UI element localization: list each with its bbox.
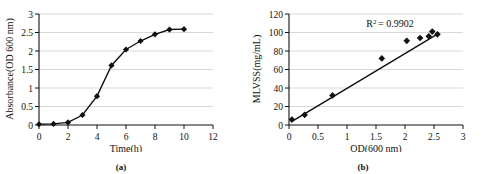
chart-b-ytick-4: 80 xyxy=(274,47,284,57)
chart-a-xtick-4: 8 xyxy=(153,132,158,142)
chart-a-ytick-1: 0.5 xyxy=(21,102,33,112)
chart-a-x-tick-labels: 0 2 4 6 8 10 12 xyxy=(37,132,218,142)
chart-a-ytick-5: 2.5 xyxy=(21,28,33,38)
chart-b-data-markers xyxy=(289,28,441,122)
chart-a-growth-curve: 3 2.5 2 1.5 1 0.5 0 0 2 4 6 8 10 12 xyxy=(0,0,242,152)
chart-b-xtick-5: 2.5 xyxy=(428,132,440,142)
chart-b-x-ticks xyxy=(289,125,463,129)
chart-a-ytick-0: 0 xyxy=(28,121,33,131)
chart-b-ytick-0: 0 xyxy=(278,121,283,131)
data-point-marker xyxy=(379,55,386,62)
data-point-marker xyxy=(429,28,436,35)
chart-a-gridlines xyxy=(39,14,213,107)
chart-b-y-tick-labels: 120 100 80 60 40 20 0 xyxy=(269,10,284,131)
chart-a-ytick-6: 3 xyxy=(28,10,33,20)
chart-a-data-line xyxy=(39,29,184,124)
chart-a-y-tick-labels: 3 2.5 2 1.5 1 0.5 0 xyxy=(21,10,33,131)
chart-b-x-axis-title: OD(600 nm) xyxy=(350,143,401,152)
panel-a-caption: (a) xyxy=(0,162,242,172)
data-point-marker xyxy=(434,31,441,38)
chart-a-xtick-1: 2 xyxy=(66,132,71,142)
chart-b-y-axis-title: MLVSS(mg/mL) xyxy=(251,35,263,104)
chart-b-ytick-2: 40 xyxy=(274,84,284,94)
chart-b-xtick-1: 0.5 xyxy=(312,132,324,142)
figure-container: 3 2.5 2 1.5 1 0.5 0 0 2 4 6 8 10 12 xyxy=(0,0,484,174)
chart-b-ytick-1: 20 xyxy=(274,102,284,112)
chart-b-ytick-5: 100 xyxy=(269,28,284,38)
data-point-marker xyxy=(289,116,296,123)
chart-b-ytick-6: 120 xyxy=(269,10,284,20)
data-point-marker xyxy=(417,35,424,42)
chart-b-trendline xyxy=(291,33,439,122)
chart-a-x-ticks xyxy=(39,125,213,129)
chart-b-calibration: 120 100 80 60 40 20 0 0 0.5 1 1.5 2 2.5 … xyxy=(242,0,484,152)
chart-a-ytick-2: 1 xyxy=(28,84,33,94)
chart-b-xtick-6: 3 xyxy=(461,132,466,142)
chart-b-y-ticks xyxy=(285,14,289,125)
data-point-marker xyxy=(50,121,56,127)
chart-b-xtick-2: 1 xyxy=(345,132,350,142)
chart-b-x-tick-labels: 0 0.5 1 1.5 2 2.5 3 xyxy=(287,132,466,142)
chart-b-gridlines xyxy=(289,14,463,107)
panel-b-caption: (b) xyxy=(242,162,484,172)
data-point-marker xyxy=(181,26,187,32)
chart-a-y-ticks xyxy=(35,14,39,125)
chart-a-x-axis-title: Time(h) xyxy=(110,143,142,152)
data-point-marker xyxy=(36,121,42,127)
chart-b-xtick-4: 2 xyxy=(403,132,408,142)
chart-a-xtick-2: 4 xyxy=(95,132,100,142)
r-squared-exponent: 2 xyxy=(373,18,377,26)
chart-a-data-markers xyxy=(36,26,187,127)
chart-b-r-squared-annotation: R2= 0.9902 xyxy=(366,18,413,30)
data-point-marker xyxy=(137,38,143,44)
chart-b-ytick-3: 60 xyxy=(274,65,284,75)
chart-a-xtick-6: 12 xyxy=(208,132,218,142)
panel-a: 3 2.5 2 1.5 1 0.5 0 0 2 4 6 8 10 12 xyxy=(0,0,242,174)
r-squared-value: = 0.9902 xyxy=(378,18,414,29)
panel-b: 120 100 80 60 40 20 0 0 0.5 1 1.5 2 2.5 … xyxy=(242,0,484,174)
chart-b-xtick-3: 1.5 xyxy=(370,132,382,142)
chart-b-xtick-0: 0 xyxy=(287,132,292,142)
chart-a-xtick-0: 0 xyxy=(37,132,42,142)
chart-a-ytick-4: 2 xyxy=(28,47,33,57)
data-point-marker xyxy=(403,38,410,45)
data-point-marker xyxy=(166,26,172,32)
chart-a-xtick-3: 6 xyxy=(124,132,129,142)
chart-a-ytick-3: 1.5 xyxy=(21,65,33,75)
chart-a-y-axis-title: Absorbance(OD 600 nm) xyxy=(4,18,16,120)
chart-a-xtick-5: 10 xyxy=(179,132,189,142)
